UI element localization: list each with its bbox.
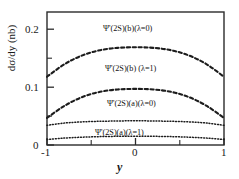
annotation-a-lambda0: Ψ'(2S)(a)(λ=0) (107, 99, 156, 108)
y-tick-label-0: 0 (33, 139, 39, 151)
annotation-a-lambda1: Ψ'(2S)(a)(λ=1) (95, 128, 144, 137)
x-tick-label-0: 0 (132, 146, 138, 158)
y-tick-label-0.2: 0.2 (25, 23, 39, 35)
chart-figure: 0.2 0.1 0 -1 0 1 dσ/dy (nb) y Ψ'(2S)(b)(… (0, 0, 239, 179)
y-axis-title: dσ/dy (nb) (5, 3, 21, 93)
y-axis-major-ticks (47, 29, 54, 145)
curve-psi2s-a-lambda0 (47, 121, 224, 126)
y-tick-label-0.1: 0.1 (25, 81, 39, 93)
x-tick-label-1: 1 (221, 146, 227, 158)
annotation-b-lambda0: Ψ'(2S)(b)(λ=0) (103, 24, 152, 33)
x-axis-major-ticks (47, 138, 224, 145)
x-axis-title: y (117, 160, 122, 175)
x-tick-label--1: -1 (41, 146, 50, 158)
annotation-b-lambda1: Ψ'(2S)(b) (λ=1) (105, 64, 156, 73)
